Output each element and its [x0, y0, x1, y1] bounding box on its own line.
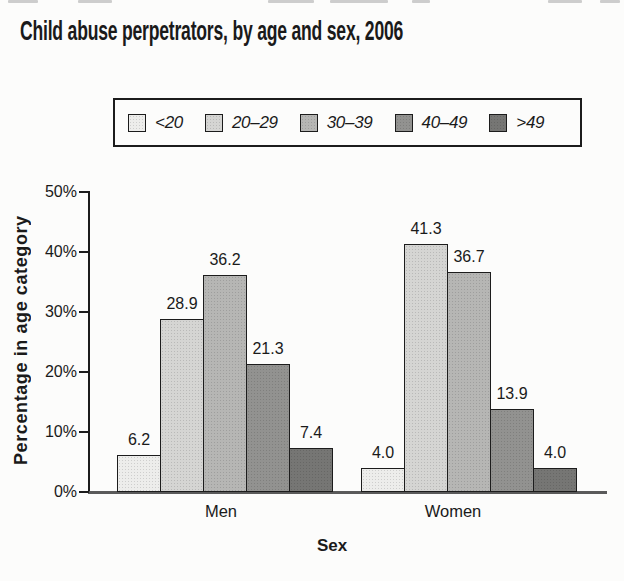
bar-value-label: 36.2 — [197, 251, 253, 269]
legend-item-label: 30–39 — [327, 113, 373, 133]
scan-speck — [8, 0, 38, 3]
bar-women-0 — [361, 468, 405, 492]
y-axis-tick-label: 40% — [28, 243, 77, 261]
legend-item-label: 40–49 — [422, 113, 468, 133]
bar-value-label: 13.9 — [484, 385, 540, 403]
legend-item-3: 40–49 — [395, 113, 468, 133]
x-category-label-men: Men — [161, 502, 281, 521]
legend-item-1: 20–29 — [205, 113, 278, 133]
legend-item-0: <20 — [128, 113, 183, 133]
legend: <2020–2930–3940–49>49 — [113, 98, 582, 147]
bar-men-4 — [289, 448, 333, 492]
y-axis-tick-label: 0% — [28, 483, 77, 501]
y-axis-tick — [79, 311, 89, 313]
bar-value-label: 36.7 — [441, 248, 497, 266]
y-axis-tick — [79, 251, 89, 253]
y-axis-tick — [79, 431, 89, 433]
scan-speck — [78, 0, 112, 3]
scan-speck — [600, 0, 620, 3]
y-axis-tick — [79, 191, 89, 193]
legend-swatch-icon — [205, 114, 223, 132]
bar-value-label: 21.3 — [240, 340, 296, 358]
y-axis-tick-label: 10% — [28, 423, 77, 441]
bar-men-1 — [160, 319, 204, 492]
scanned-chart-page: Child abuse perpetrators, by age and sex… — [0, 0, 624, 581]
y-axis-tick-label: 20% — [28, 363, 77, 381]
y-axis-tick-label: 30% — [28, 303, 77, 321]
scan-speck — [548, 0, 582, 3]
y-axis-tick-label: 50% — [28, 183, 77, 201]
legend-item-label: 20–29 — [232, 113, 278, 133]
chart-title: Child abuse perpetrators, by age and sex… — [20, 16, 403, 47]
legend-swatch-icon — [395, 114, 413, 132]
bar-men-2 — [203, 275, 247, 492]
y-axis-title: Percentage in age category — [10, 190, 32, 490]
bar-value-label: 4.0 — [527, 444, 583, 462]
x-category-label-women: Women — [393, 502, 513, 521]
bar-women-1 — [404, 244, 448, 492]
scan-speck — [268, 0, 314, 3]
bar-value-label: 7.4 — [283, 424, 339, 442]
x-axis-title: Sex — [272, 536, 392, 556]
legend-swatch-icon — [489, 114, 507, 132]
bar-value-label: 28.9 — [154, 295, 210, 313]
bar-value-label: 4.0 — [355, 444, 411, 462]
legend-item-2: 30–39 — [300, 113, 373, 133]
scan-speck — [412, 0, 430, 3]
legend-item-label: <20 — [155, 113, 183, 133]
y-axis-line — [88, 191, 90, 493]
bar-men-0 — [117, 455, 161, 492]
y-axis-tick — [79, 371, 89, 373]
legend-swatch-icon — [128, 114, 146, 132]
legend-swatch-icon — [300, 114, 318, 132]
bar-women-4 — [533, 468, 577, 492]
scan-speck — [330, 0, 388, 3]
y-axis-tick — [79, 491, 89, 493]
legend-item-4: >49 — [489, 113, 544, 133]
bar-value-label: 41.3 — [398, 220, 454, 238]
legend-item-label: >49 — [516, 113, 544, 133]
bar-value-label: 6.2 — [111, 431, 167, 449]
bar-women-2 — [447, 272, 491, 492]
